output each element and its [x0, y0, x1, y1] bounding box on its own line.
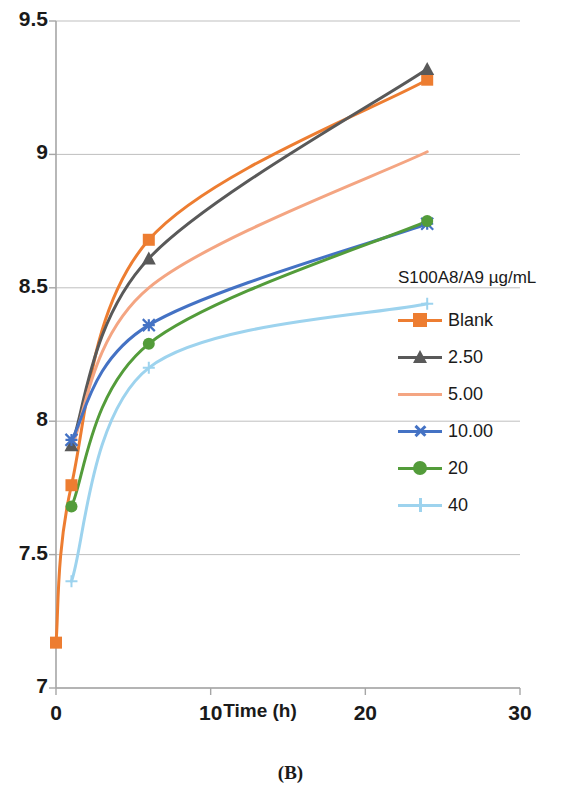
series-line-2-50 — [71, 69, 427, 445]
series-line-5-00 — [71, 152, 427, 448]
legend-swatch-40 — [398, 496, 442, 514]
figure-panel-b: 77.588.599.5 0102030 Time (h) S100A8/A9 … — [0, 0, 581, 800]
legend-label: 20 — [448, 458, 468, 479]
legend-items: Blank2.505.0010.002040 — [398, 304, 578, 521]
legend-item-40[interactable]: 40 — [398, 489, 578, 521]
panel-caption: (B) — [0, 762, 581, 784]
legend-label: 10.00 — [448, 421, 493, 442]
series-line-blank — [56, 80, 427, 643]
legend-label: 5.00 — [448, 384, 483, 405]
legend-square-marker-icon — [413, 313, 427, 327]
legend-label: 2.50 — [448, 347, 483, 368]
legend-item-2-50[interactable]: 2.50 — [398, 341, 578, 373]
panel-caption-text: (B) — [278, 762, 303, 783]
legend-label: Blank — [448, 310, 493, 331]
marker-10-00-1 — [143, 319, 155, 331]
y-tick-label-9: 9 — [0, 140, 48, 164]
legend-swatch-blank — [398, 311, 442, 329]
legend-swatch-20 — [398, 459, 442, 477]
y-tick-label-7: 7 — [0, 674, 48, 698]
legend-swatch-2-50 — [398, 348, 442, 366]
legend-item-blank[interactable]: Blank — [398, 304, 578, 336]
data-series-markers — [50, 62, 434, 649]
y-tick-label-9.5: 9.5 — [0, 7, 48, 31]
series-line-20 — [71, 221, 427, 506]
x-axis-title: Time (h) — [0, 700, 520, 722]
marker-20-1 — [143, 338, 155, 350]
y-tick-label-8: 8 — [0, 407, 48, 431]
marker-10-00-0 — [65, 434, 77, 446]
data-series-lines — [56, 69, 427, 643]
legend-circle-marker-icon — [413, 461, 427, 475]
legend-title: S100A8/A9 µg/mL — [398, 268, 578, 288]
marker-blank-0 — [50, 637, 62, 649]
y-tick-label-7.5: 7.5 — [0, 541, 48, 565]
legend-label: 40 — [448, 495, 468, 516]
marker-20-0 — [65, 501, 77, 513]
legend-swatch-5-00 — [398, 385, 442, 403]
marker-blank-3 — [421, 74, 433, 86]
legend-item-20[interactable]: 20 — [398, 452, 578, 484]
legend-swatch-10-00 — [398, 422, 442, 440]
legend-item-5-00[interactable]: 5.00 — [398, 378, 578, 410]
marker-blank-1 — [65, 479, 77, 491]
marker-40-0 — [65, 575, 77, 587]
y-tick-label-8.5: 8.5 — [0, 274, 48, 298]
legend-line-icon — [398, 393, 442, 396]
legend-triangle-marker-icon — [413, 350, 427, 363]
marker-blank-2 — [143, 234, 155, 246]
legend-x-marker-icon — [413, 424, 427, 438]
marker-20-2 — [421, 215, 433, 227]
chart-legend: S100A8/A9 µg/mL Blank2.505.0010.002040 — [398, 268, 578, 526]
marker-2-50-2 — [420, 62, 434, 75]
legend-item-10-00[interactable]: 10.00 — [398, 415, 578, 447]
legend-plus-marker-icon — [413, 498, 427, 512]
